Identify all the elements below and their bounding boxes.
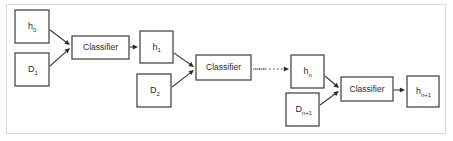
ellipsis-dots xyxy=(255,68,265,69)
edge-h0-to-C1 xyxy=(50,30,70,45)
node-label-subscript: n xyxy=(308,71,311,77)
ellipsis-dot xyxy=(263,68,265,69)
arrow-head-icon xyxy=(188,62,194,67)
nodes-layer: h0D1Classifierh1D2ClassifierhnDn+1Classi… xyxy=(15,10,439,126)
arrow-head-icon xyxy=(284,67,289,72)
edge-D2-to-C2 xyxy=(172,70,194,87)
node-label: Classifier xyxy=(206,62,241,72)
edge-C1-to-h1 xyxy=(130,45,138,50)
node-Dn1-box[interactable]: Dn+1 xyxy=(286,93,319,126)
arrow-head-icon xyxy=(64,40,70,45)
edge-line xyxy=(174,53,190,64)
node-C2-classifier-box[interactable]: Classifier xyxy=(196,55,251,80)
edge-line xyxy=(50,51,67,66)
arrow-head-icon xyxy=(133,45,138,50)
edge-Dn1-to-C3 xyxy=(320,91,339,105)
node-C1-classifier-box[interactable]: Classifier xyxy=(72,36,129,59)
arrow-head-icon xyxy=(400,88,405,93)
node-label-subscript: n+1 xyxy=(302,109,313,115)
node-D2-box[interactable]: D2 xyxy=(137,74,171,107)
edge-h1-to-C2 xyxy=(174,53,194,67)
node-label: Classifier xyxy=(350,84,385,94)
node-hn1-box[interactable]: hn+1 xyxy=(407,76,439,107)
edge-line xyxy=(320,94,335,105)
node-D1-box[interactable]: D1 xyxy=(15,53,49,86)
node-C3-classifier-box[interactable]: Classifier xyxy=(341,77,393,101)
node-label-subscript: n+1 xyxy=(421,91,432,97)
node-label: Classifier xyxy=(83,42,118,52)
edge-hn-to-C3 xyxy=(325,76,339,88)
node-hn-box[interactable]: hn xyxy=(291,55,324,88)
edge-line xyxy=(172,73,190,87)
edge-D1-to-C1 xyxy=(50,48,70,66)
edge-C3-to-hn1 xyxy=(394,88,405,93)
flow-diagram: h0D1Classifierh1D2ClassifierhnDn+1Classi… xyxy=(0,0,453,141)
edge-C2-to-hn xyxy=(253,67,289,72)
ellipsis-dot xyxy=(259,68,261,69)
edge-line xyxy=(325,76,336,85)
edge-line xyxy=(50,30,66,42)
diagram-canvas: h0D1Classifierh1D2ClassifierhnDn+1Classi… xyxy=(0,0,453,141)
node-h1-box[interactable]: h1 xyxy=(140,31,173,63)
arrow-head-icon xyxy=(333,91,339,96)
ellipsis-dot xyxy=(255,68,257,69)
node-h0-box[interactable]: h0 xyxy=(15,10,49,43)
